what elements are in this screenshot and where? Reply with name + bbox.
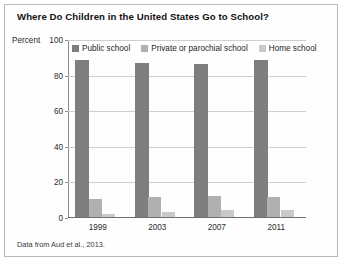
x-axis-line [68, 217, 306, 218]
bar-group: 2003 [128, 39, 188, 217]
legend-swatch-icon [72, 45, 79, 52]
x-tick-label: 2007 [187, 223, 247, 232]
plot-area: 100806040200 1999200320072011 [68, 40, 306, 218]
bar[interactable] [194, 64, 208, 217]
y-axis-label: Percent [12, 36, 40, 45]
bar-group: 1999 [68, 39, 128, 217]
y-tick-label: 40 [54, 142, 63, 151]
bar[interactable] [89, 199, 102, 217]
x-tick-label: 2003 [128, 223, 188, 232]
y-tick-label: 60 [54, 107, 63, 116]
bar[interactable] [281, 210, 294, 217]
chart-legend: Public schoolPrivate or parochial school… [72, 44, 317, 53]
legend-item[interactable]: Public school [72, 44, 130, 53]
legend-item[interactable]: Home school [259, 44, 317, 53]
figure-container: Where Do Children in the United States G… [0, 0, 345, 265]
legend-swatch-icon [141, 45, 148, 52]
bar[interactable] [254, 60, 268, 217]
bar[interactable] [208, 196, 221, 217]
bar[interactable] [75, 60, 89, 217]
legend-label: Public school [82, 44, 130, 53]
legend-item[interactable]: Private or parochial school [141, 44, 247, 53]
bar[interactable] [267, 197, 280, 217]
y-tick-label: 0 [58, 214, 63, 223]
legend-swatch-icon [259, 45, 266, 52]
y-tick-label: 20 [54, 178, 63, 187]
source-note: Data from Aud et al., 2013. [17, 240, 105, 249]
x-tick-label: 2011 [247, 223, 307, 232]
x-tick-label: 1999 [68, 223, 128, 232]
y-tick-label: 100 [49, 36, 63, 45]
bar[interactable] [148, 197, 161, 217]
bar[interactable] [135, 63, 149, 217]
bar-group: 2007 [187, 39, 247, 217]
legend-label: Home school [269, 44, 317, 53]
bar[interactable] [221, 210, 234, 217]
page-title: Where Do Children in the United States G… [17, 11, 269, 22]
bar-group: 2011 [247, 39, 307, 217]
bar[interactable] [102, 214, 115, 217]
legend-label: Private or parochial school [151, 44, 247, 53]
y-tick-label: 80 [54, 71, 63, 80]
y-tick-mark [65, 218, 68, 219]
bar[interactable] [162, 212, 175, 217]
